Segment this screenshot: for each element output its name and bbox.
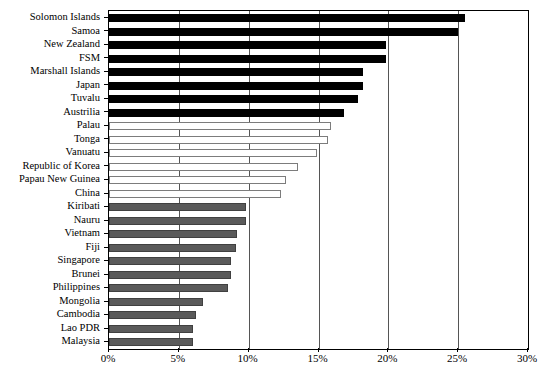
y-axis-label-mongolia: Mongolia [0, 294, 104, 308]
y-axis-tick [104, 220, 108, 221]
y-axis-label-austrilia: Austrilia [0, 105, 104, 119]
bar-fiji[interactable] [109, 244, 236, 252]
x-axis-tick [108, 348, 109, 352]
bar-vietnam[interactable] [109, 230, 237, 238]
x-axis-label-25pct: 25% [447, 352, 467, 364]
bar-lao-pdr[interactable] [109, 325, 193, 333]
bar-row [109, 200, 528, 214]
bar-marshall-islands[interactable] [109, 68, 363, 76]
bar-row [109, 214, 528, 228]
x-axis-tick [178, 348, 179, 352]
bar-row [109, 254, 528, 268]
bar-republic-of-korea[interactable] [109, 163, 298, 171]
bar-row [109, 268, 528, 282]
bar-brunei[interactable] [109, 271, 231, 279]
bar-tuvalu[interactable] [109, 95, 358, 103]
y-axis-label-japan: Japan [0, 78, 104, 92]
bar-austrilia[interactable] [109, 109, 344, 117]
y-axis-tick [104, 193, 108, 194]
y-axis-tick [104, 84, 108, 85]
y-axis-tick [104, 125, 108, 126]
y-axis-tick [104, 247, 108, 248]
bar-palau[interactable] [109, 122, 331, 130]
bar-row [109, 335, 528, 349]
y-axis-label-singapore: Singapore [0, 253, 104, 267]
bar-samoa[interactable] [109, 28, 458, 36]
y-axis-label-marshall-islands: Marshall Islands [0, 64, 104, 78]
bar-row [109, 308, 528, 322]
y-axis-tick [104, 314, 108, 315]
bar-row [109, 79, 528, 93]
y-axis-tick [104, 17, 108, 18]
bar-mongolia[interactable] [109, 298, 203, 306]
y-axis-label-cambodia: Cambodia [0, 307, 104, 321]
bar-papau-new-guinea[interactable] [109, 176, 286, 184]
y-axis-tick [104, 57, 108, 58]
bar-solomon-islands[interactable] [109, 14, 465, 22]
x-axis-label-0pct: 0% [101, 352, 116, 364]
y-axis-label-vanuatu: Vanuatu [0, 145, 104, 159]
plot-area [108, 10, 529, 350]
bar-row [109, 65, 528, 79]
y-axis-tick [104, 179, 108, 180]
y-axis-tick [104, 138, 108, 139]
y-axis-tick [104, 44, 108, 45]
y-axis-label-fiji: Fiji [0, 240, 104, 254]
bar-row [109, 52, 528, 66]
bar-philippines[interactable] [109, 284, 228, 292]
bar-row [109, 241, 528, 255]
y-axis-label-tuvalu: Tuvalu [0, 91, 104, 105]
bar-row [109, 281, 528, 295]
y-axis-tick [104, 341, 108, 342]
y-axis-label-solomon-islands: Solomon Islands [0, 10, 104, 24]
bar-cambodia[interactable] [109, 311, 196, 319]
y-axis-tick [104, 274, 108, 275]
y-axis-label-malaysia: Malaysia [0, 334, 104, 348]
bar-fsm[interactable] [109, 55, 386, 63]
bar-new-zealand[interactable] [109, 41, 386, 49]
y-axis-label-kiribati: Kiribati [0, 199, 104, 213]
bar-row [109, 187, 528, 201]
x-axis-tick [387, 348, 388, 352]
bar-singapore[interactable] [109, 257, 231, 265]
x-axis-label-20pct: 20% [377, 352, 397, 364]
y-axis-label-nauru: Nauru [0, 213, 104, 227]
y-axis-tick [104, 98, 108, 99]
y-axis-tick [104, 165, 108, 166]
y-axis-tick [104, 111, 108, 112]
y-axis-label-new-zealand: New Zealand [0, 37, 104, 51]
y-axis-label-papau-new-guinea: Papau New Guinea [0, 172, 104, 186]
bar-china[interactable] [109, 190, 281, 198]
y-axis-label-philippines: Philippines [0, 280, 104, 294]
bar-tonga[interactable] [109, 136, 328, 144]
y-axis-label-lao-pdr: Lao PDR [0, 321, 104, 335]
bar-row [109, 11, 528, 25]
bar-row [109, 173, 528, 187]
bar-vanuatu[interactable] [109, 149, 317, 157]
bar-kiribati[interactable] [109, 203, 246, 211]
y-axis-label-brunei: Brunei [0, 267, 104, 281]
bar-malaysia[interactable] [109, 338, 193, 346]
bar-row [109, 25, 528, 39]
y-axis-tick [104, 301, 108, 302]
x-axis-tick [248, 348, 249, 352]
y-axis-tick [104, 152, 108, 153]
x-axis-label-list: 0%5%10%15%20%25%30% [108, 352, 527, 372]
y-axis-tick [104, 233, 108, 234]
bar-row [109, 227, 528, 241]
y-axis-label-tonga: Tonga [0, 132, 104, 146]
y-axis-tick [104, 260, 108, 261]
bar-nauru[interactable] [109, 217, 246, 225]
y-axis-label-palau: Palau [0, 118, 104, 132]
bar-row [109, 295, 528, 309]
x-axis-tick [318, 348, 319, 352]
y-axis-label-vietnam: Vietnam [0, 226, 104, 240]
bar-row [109, 106, 528, 120]
bar-row [109, 160, 528, 174]
bar-japan[interactable] [109, 82, 363, 90]
y-axis-tick [104, 71, 108, 72]
y-axis-tick [104, 30, 108, 31]
x-axis-label-5pct: 5% [170, 352, 185, 364]
y-axis-tick [104, 328, 108, 329]
y-axis-label-china: China [0, 186, 104, 200]
